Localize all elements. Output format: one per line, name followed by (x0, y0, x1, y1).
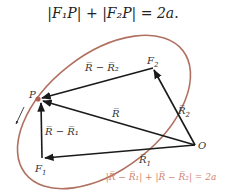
label-r: R̅ (111, 108, 120, 119)
point-p (35, 96, 40, 101)
vector-r2 (154, 70, 195, 145)
label-f2: F2 (146, 55, 159, 69)
label-o: O (198, 140, 206, 151)
label-r-minus-r1: R̅ − R̅₁ (44, 126, 79, 137)
vector-r1 (45, 145, 195, 158)
label-p: P (28, 89, 36, 100)
vector-r-minus-r1 (41, 103, 42, 158)
ellipse-vector-diagram: |F₁P| + |F₂P| = 2a. P F2 F1 O R̅ R̅2 R̅1… (0, 0, 227, 195)
equation-title: |F₁P| + |F₂P| = 2a. (47, 5, 178, 22)
caption-equation: |R̅ − R̅₁| + |R̅ − R̅₂| = 2a (106, 171, 217, 183)
direction-arrow-icon (16, 107, 24, 124)
label-r-minus-r2: R̅ − R̅₂ (84, 62, 119, 73)
label-f1: F1 (34, 163, 46, 177)
label-r1: R̅1 (138, 154, 151, 168)
